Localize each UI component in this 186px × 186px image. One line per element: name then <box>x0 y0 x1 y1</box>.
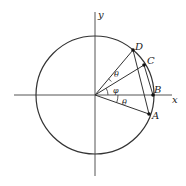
angle-arc-phi <box>106 88 108 95</box>
point-C <box>142 63 146 67</box>
label-C: C <box>147 55 155 66</box>
angle-label-theta-bottom: θ <box>122 98 127 107</box>
angle-arc-theta-bottom <box>117 95 118 103</box>
x-axis-label: x <box>172 94 178 105</box>
label-B: B <box>153 84 161 95</box>
radius-OC <box>95 65 144 95</box>
circle-angle-diagram: y x D C B A θ φ θ <box>0 0 186 186</box>
angle-label-phi: φ <box>113 86 119 95</box>
label-A: A <box>151 110 159 121</box>
angle-label-theta-top: θ <box>114 70 119 79</box>
label-D: D <box>134 41 143 52</box>
angle-arc-theta-top <box>109 79 112 82</box>
point-A <box>147 112 151 116</box>
y-axis-label: y <box>97 9 104 20</box>
